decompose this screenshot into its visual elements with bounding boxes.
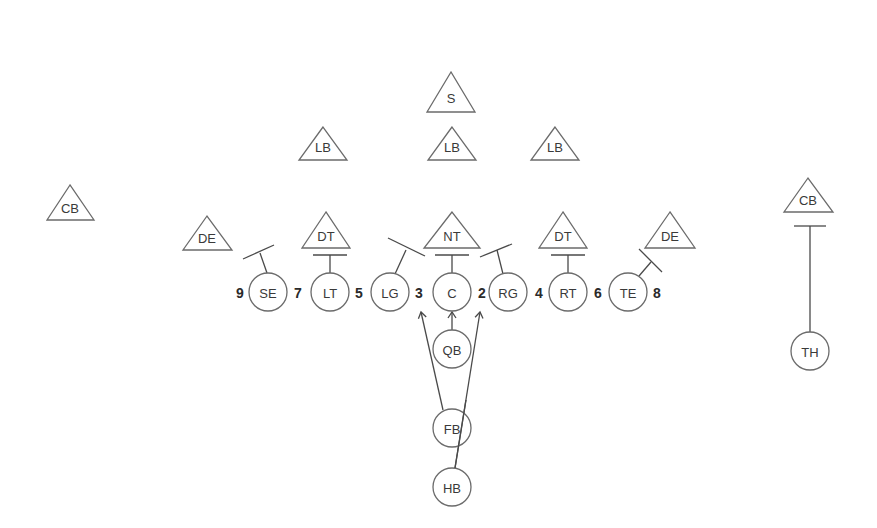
player-rt[interactable]: RT — [549, 273, 587, 311]
player-qb[interactable]: QB — [433, 330, 471, 368]
player-hb[interactable]: HB — [433, 468, 471, 506]
player-c[interactable]: C — [433, 273, 471, 311]
defender-de-left[interactable]: DE — [183, 216, 232, 250]
lg-block-bar — [388, 238, 425, 256]
defender-label: S — [447, 91, 456, 106]
lg-block-stem — [395, 250, 406, 274]
player-label: LG — [381, 286, 398, 301]
player-lg[interactable]: LG — [371, 273, 409, 311]
player-label: QB — [443, 343, 462, 358]
defender-cb-left[interactable]: CB — [47, 185, 94, 220]
player-label: SE — [259, 286, 277, 301]
defender-label: NT — [443, 229, 460, 244]
gap-number-2: 2 — [478, 285, 486, 301]
defender-cb-right[interactable]: CB — [784, 178, 833, 212]
defense: S LB LB LB CB DE DT NT — [47, 72, 833, 250]
rg-block-stem — [497, 250, 503, 274]
player-rg[interactable]: RG — [489, 273, 527, 311]
player-label: RT — [559, 286, 576, 301]
player-label: LT — [323, 286, 337, 301]
player-label: TE — [620, 286, 637, 301]
se-block-bar — [243, 245, 274, 259]
defender-dt-right[interactable]: DT — [539, 212, 587, 248]
player-label: RG — [498, 286, 518, 301]
player-label: HB — [443, 481, 461, 496]
player-label: FB — [444, 422, 461, 437]
player-lt[interactable]: LT — [311, 273, 349, 311]
gap-number-7: 7 — [294, 285, 302, 301]
player-label: C — [447, 286, 456, 301]
offense: SE LT LG C RG RT TE QB — [249, 273, 829, 506]
player-se[interactable]: SE — [249, 273, 287, 311]
defender-label: DT — [554, 229, 571, 244]
defender-label: LB — [547, 140, 563, 155]
se-block-stem — [260, 253, 267, 273]
defender-label: LB — [444, 140, 460, 155]
player-te[interactable]: TE — [609, 273, 647, 311]
gap-number-8: 8 — [653, 285, 661, 301]
defender-s[interactable]: S — [427, 72, 475, 112]
gap-number-4: 4 — [535, 285, 543, 301]
defender-de-right[interactable]: DE — [645, 212, 695, 248]
defender-label: LB — [315, 140, 331, 155]
gap-number-5: 5 — [355, 285, 363, 301]
defender-lb-middle[interactable]: LB — [428, 127, 476, 160]
te-block-bar — [639, 249, 662, 272]
gap-number-6: 6 — [594, 285, 602, 301]
player-fb[interactable]: FB — [433, 409, 471, 447]
play-diagram: S LB LB LB CB DE DT NT — [0, 0, 877, 528]
defender-dt-left[interactable]: DT — [302, 212, 350, 248]
player-label: TH — [801, 345, 818, 360]
defender-lb-right[interactable]: LB — [531, 127, 579, 160]
defender-label: CB — [799, 193, 817, 208]
gap-number-3: 3 — [415, 285, 423, 301]
defender-label: CB — [61, 201, 79, 216]
defender-nt[interactable]: NT — [424, 212, 480, 248]
te-block-stem — [639, 262, 651, 276]
rg-block-bar — [480, 244, 512, 257]
player-th[interactable]: TH — [791, 332, 829, 370]
gap-number-9: 9 — [236, 285, 244, 301]
defender-label: DE — [661, 229, 679, 244]
defender-label: DE — [198, 231, 216, 246]
defender-label: DT — [317, 229, 334, 244]
defender-lb-left[interactable]: LB — [299, 127, 347, 160]
